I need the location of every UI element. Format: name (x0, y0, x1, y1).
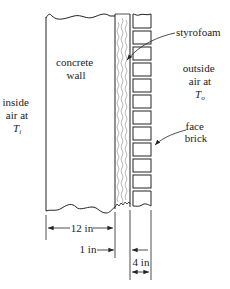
inside-temperature-label: Ti (13, 122, 21, 136)
concrete-wall (46, 14, 115, 213)
svg-text:1 in: 1 in (80, 243, 97, 255)
face-brick-leader-arrow (155, 130, 186, 145)
inside-air-label: inside air at (2, 96, 31, 121)
styrofoam-label: styrofoam (176, 26, 221, 38)
dimension-extension-lines (46, 210, 151, 280)
outside-temperature-label: To (195, 88, 205, 102)
svg-text:4 in: 4 in (133, 256, 150, 268)
concrete-wall-label: concrete wall (56, 56, 96, 81)
dimension-1in: 1 in (80, 243, 148, 255)
dimension-12in: 12 in (48, 222, 113, 234)
outside-air-label: outside air at (183, 62, 218, 87)
dimension-4in: 4 in (132, 256, 150, 272)
face-brick-label: face brick (185, 120, 208, 144)
composite-wall-diagram: concrete wall inside air at Ti styrofoam… (0, 0, 230, 289)
svg-text:12 in: 12 in (71, 222, 94, 234)
styrofoam-layer (115, 14, 130, 207)
